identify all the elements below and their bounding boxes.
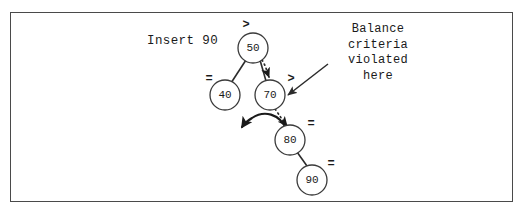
tree-node-70[interactable]: 70 bbox=[255, 80, 285, 110]
node-key-40: 40 bbox=[218, 89, 231, 101]
insert-operation-label: Insert 90 bbox=[147, 34, 218, 48]
edge-80-90 bbox=[297, 152, 307, 166]
tree-node-40[interactable]: 40 bbox=[210, 80, 240, 110]
figure-screenshot: 50 > 40 = 70 > 80 = 90 = Insert 90 Balan… bbox=[0, 0, 522, 214]
node-key-90: 90 bbox=[305, 174, 318, 186]
balance-violation-annotation: Balance criteria violated here bbox=[330, 22, 426, 84]
tree-node-90[interactable]: 90 bbox=[297, 165, 327, 195]
balance-factor-70: > bbox=[287, 72, 294, 86]
avl-tree-diagram: 50 > 40 = 70 > 80 = 90 = bbox=[0, 0, 522, 214]
balance-factor-50: > bbox=[242, 18, 249, 32]
node-key-50: 50 bbox=[246, 42, 259, 54]
node-key-80: 80 bbox=[283, 134, 296, 146]
tree-node-50[interactable]: 50 bbox=[238, 33, 268, 63]
balance-factor-80: = bbox=[307, 117, 314, 131]
balance-factor-40: = bbox=[205, 72, 212, 86]
balance-factor-90: = bbox=[327, 157, 334, 171]
edge-50-40 bbox=[231, 60, 246, 83]
tree-node-80[interactable]: 80 bbox=[275, 125, 305, 155]
edge-50-70 bbox=[260, 60, 266, 81]
node-key-70: 70 bbox=[263, 89, 276, 101]
